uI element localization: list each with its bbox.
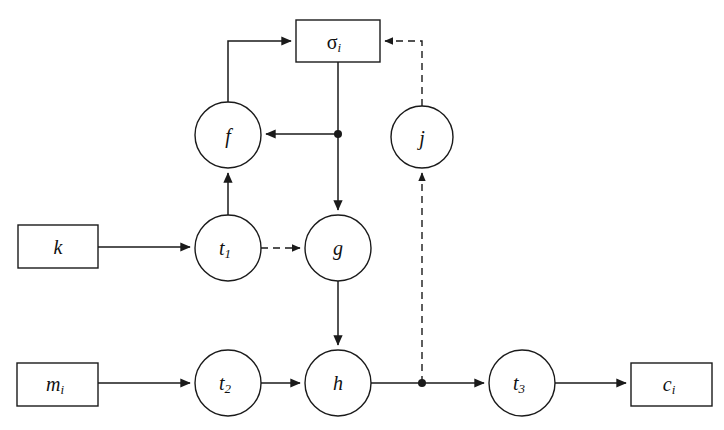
node-sigma-i[interactable]: σi	[296, 20, 380, 62]
node-h[interactable]: h	[305, 350, 371, 416]
node-t2[interactable]: t2	[195, 350, 261, 416]
junction-sigma-branch	[334, 130, 342, 138]
node-g[interactable]: g	[305, 215, 371, 281]
node-m-i[interactable]: mi	[17, 363, 98, 406]
edge-f-to-sigma	[228, 41, 291, 102]
edge-j-to-sigma	[385, 41, 422, 106]
node-h-label: h	[333, 372, 343, 394]
node-g-label: g	[333, 237, 343, 260]
node-k[interactable]: k	[18, 225, 98, 268]
node-j[interactable]: j	[391, 106, 453, 168]
node-c-i[interactable]: ci	[631, 363, 712, 406]
block-diagram: σi f j k t1 g mi	[0, 0, 724, 430]
junction-h-branch	[418, 379, 426, 387]
node-t1[interactable]: t1	[195, 215, 261, 281]
node-t3[interactable]: t3	[489, 350, 555, 416]
diagram-canvas: σi f j k t1 g mi	[0, 0, 724, 430]
node-f[interactable]: f	[195, 102, 261, 168]
edge-layer	[98, 41, 626, 383]
node-k-label: k	[54, 236, 64, 258]
